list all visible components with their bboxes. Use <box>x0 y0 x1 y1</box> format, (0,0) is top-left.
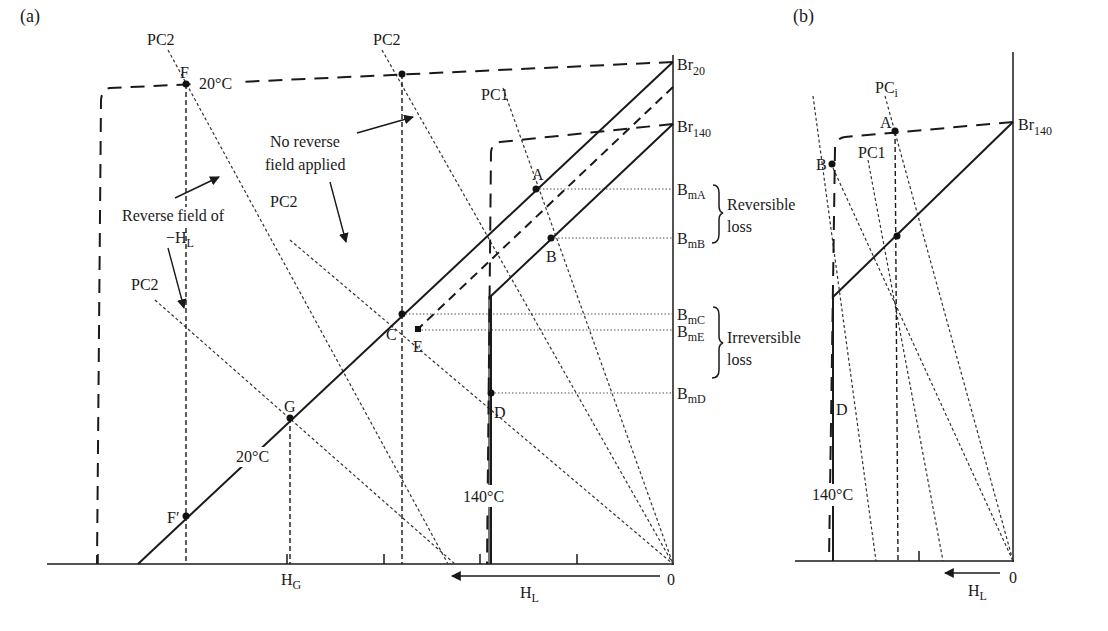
label-hl-b: HL <box>968 582 987 603</box>
pc2-line-top <box>382 50 673 564</box>
label-f: F <box>180 64 189 81</box>
label-pc1: PC1 <box>481 86 509 103</box>
label-pc2-top-left: PC2 <box>147 31 175 48</box>
label-pc1-b: PC1 <box>858 144 886 161</box>
demagnetization-diagram: (a) <box>0 0 1108 631</box>
label-140c: 140°C <box>463 488 504 505</box>
point-b-b <box>829 161 836 168</box>
label-pc2-top-mid: PC2 <box>373 31 401 48</box>
label-reversible-1: Reversible <box>727 196 795 213</box>
arrow-reverse-1 <box>175 177 219 198</box>
recoil-line-20c <box>138 62 673 564</box>
label-d: D <box>494 404 506 421</box>
label-d-b: D <box>836 401 848 418</box>
point-top <box>399 71 406 78</box>
point-e <box>415 326 421 332</box>
label-a-b: A <box>880 114 892 131</box>
projection-lines <box>402 189 673 393</box>
label-140c-b: 140°C <box>812 486 853 503</box>
h-axis-ticks <box>98 554 577 564</box>
label-c: C <box>386 326 397 343</box>
pc2-line-f <box>168 50 448 564</box>
label-bma: BmA <box>677 181 706 202</box>
label-reversible-2: loss <box>727 218 752 235</box>
label-hg: HG <box>281 571 302 592</box>
label-b: B <box>546 248 557 265</box>
point-f-prime <box>183 513 190 520</box>
arrow-no-reverse-2 <box>330 182 346 242</box>
label-br140-b: Br140 <box>1018 116 1052 138</box>
label-a: A <box>532 166 544 183</box>
brace-reversible <box>712 185 723 243</box>
permeance-lines <box>155 50 673 564</box>
arrow-reverse-2 <box>168 248 184 308</box>
point-mid-b <box>894 233 901 240</box>
label-20c-line: 20°C <box>236 448 269 465</box>
annotation-no-reverse-1: No reverse <box>270 133 340 150</box>
label-irreversible-1: Irreversible <box>727 329 801 346</box>
point-c <box>399 311 406 318</box>
annotation-reverse-1: Reverse field of <box>122 207 225 224</box>
annotation-reverse-2: −HL <box>166 229 194 250</box>
panel-b-label: (b) <box>793 6 814 27</box>
label-pci: PCi <box>875 79 899 100</box>
panel-b: (b) A B D PCi PC1 140°C Br140 0 <box>793 6 1052 603</box>
label-b-b: B <box>816 156 827 173</box>
point-b <box>548 235 555 242</box>
panel-a-label: (a) <box>20 6 40 27</box>
pc2-line-c <box>290 240 673 564</box>
panel-a: (a) <box>20 6 801 605</box>
point-d <box>488 390 495 397</box>
brace-irreversible <box>712 307 723 378</box>
demag-curve-140c <box>487 124 673 564</box>
label-f-prime: F′ <box>167 509 179 526</box>
label-origin-a: 0 <box>667 571 675 588</box>
demag-curve-20c <box>97 62 673 564</box>
point-a-b <box>892 128 899 135</box>
label-bmb: BmB <box>677 230 705 251</box>
label-origin-b: 0 <box>1009 569 1017 586</box>
point-f <box>183 81 190 88</box>
label-e: E <box>413 338 423 355</box>
label-br20: Br20 <box>677 56 705 78</box>
label-bmd: BmD <box>677 385 706 406</box>
label-pc2-mid: PC2 <box>270 193 298 210</box>
point-a <box>533 186 540 193</box>
label-hl-a: HL <box>520 584 539 605</box>
arrow-no-reverse-1 <box>357 117 413 133</box>
recoil-line-140c <box>491 124 673 564</box>
label-20c-top: 20°C <box>199 75 232 92</box>
label-br140: Br140 <box>677 118 711 140</box>
pc2-line-g <box>155 300 455 564</box>
label-pc2-left: PC2 <box>131 276 159 293</box>
annotation-no-reverse-2: field applied <box>265 156 345 174</box>
label-irreversible-2: loss <box>727 351 752 368</box>
point-g <box>287 415 294 422</box>
label-g: G <box>284 398 296 415</box>
